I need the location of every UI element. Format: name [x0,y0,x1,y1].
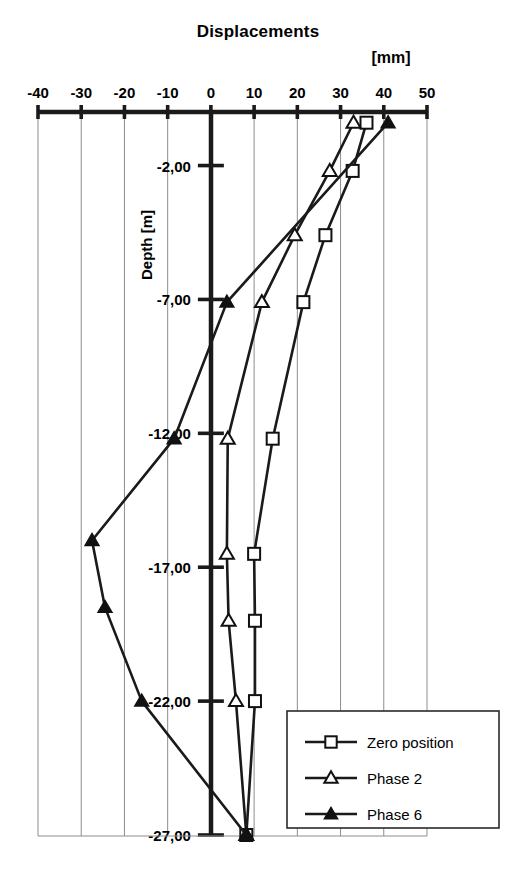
x-axis-unit-label: [mm] [371,49,410,66]
legend-label: Zero position [367,734,454,751]
x-tick-label--10: -10 [157,84,179,101]
x-tick-label-20: 20 [289,84,306,101]
marker-open-triangle [347,116,361,128]
marker-open-triangle [255,295,269,307]
chart-legend: Zero positionPhase 2Phase 6 [287,711,499,828]
y-tick-label--22: -22,00 [148,693,191,710]
x-tick-label--30: -30 [70,84,92,101]
marker-open-triangle [288,228,302,240]
marker-open-square [319,229,331,241]
x-tick-label--40: -40 [27,84,49,101]
x-tick-label-50: 50 [419,84,436,101]
x-tick-label-40: 40 [375,84,392,101]
y-tick-label--2: -2,00 [157,158,191,175]
chart-figure: Displacements [mm] -40-30-20-10010203040… [0,0,516,869]
legend-label: Phase 6 [367,806,422,823]
chart-title: Displacements [197,22,320,41]
y-tick-label--17: -17,00 [148,559,191,576]
marker-open-square [267,433,279,445]
y-axis-title: Depth [m] [138,210,155,280]
x-tick-label-10: 10 [246,84,263,101]
x-tick-labels: -40-30-20-1001020304050 [27,84,435,101]
marker-open-square [325,736,336,747]
marker-open-square [249,695,261,707]
marker-open-square [248,548,260,560]
x-tick-label-0: 0 [207,84,215,101]
displacement-depth-chart: Displacements [mm] -40-30-20-10010203040… [0,0,516,869]
marker-open-triangle [229,694,243,706]
marker-solid-triangle [98,600,112,612]
marker-open-triangle [220,547,234,559]
legend-label: Phase 2 [367,770,422,787]
legend-item-0[interactable]: Zero position [305,734,454,751]
x-tick-label-30: 30 [332,84,349,101]
marker-open-triangle [222,614,236,626]
y-tick-label--7: -7,00 [157,291,191,308]
marker-open-triangle [323,164,337,176]
marker-open-square [297,296,309,308]
marker-open-square [249,615,261,627]
marker-solid-triangle [135,694,149,706]
x-tick-label--20: -20 [114,84,136,101]
marker-open-square [360,117,372,129]
